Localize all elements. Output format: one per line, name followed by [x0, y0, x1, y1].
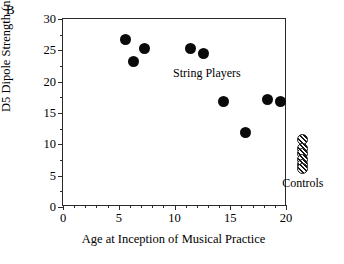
- x-axis-tick-label: 5: [116, 212, 122, 225]
- y-axis-tick-minor: [60, 191, 63, 192]
- x-axis-tick-minor: [152, 205, 153, 208]
- x-axis-tick-minor: [96, 205, 97, 208]
- y-axis-tick-minor: [60, 35, 63, 36]
- y-axis-tick-major: [58, 113, 63, 114]
- data-point: [185, 43, 196, 54]
- series-annotation-controls: Controls: [282, 176, 323, 191]
- series-annotation-string-players: String Players: [173, 65, 241, 80]
- y-axis-tick-label: 5: [50, 169, 56, 182]
- x-axis-tick-label: 15: [224, 212, 237, 225]
- x-axis-tick-minor: [197, 205, 198, 208]
- x-axis-tick-minor: [208, 205, 209, 208]
- figure-panel-b: B D5 Dipole Strength (nA•m) Age at Incep…: [0, 0, 344, 264]
- y-axis-tick-minor: [60, 66, 63, 67]
- y-axis-title: D5 Dipole Strength (nA•m): [0, 0, 14, 112]
- y-axis-tick-label: 15: [44, 107, 57, 120]
- x-axis-tick-label: 20: [280, 212, 293, 225]
- x-axis-tick-major: [286, 205, 287, 210]
- y-axis-tick-label: 20: [44, 75, 57, 88]
- x-axis-tick-label: 10: [168, 212, 181, 225]
- x-axis-tick-major: [119, 205, 120, 210]
- y-axis-tick-minor: [60, 129, 63, 130]
- x-axis-tick-minor: [275, 205, 276, 208]
- x-axis-tick-minor: [186, 205, 187, 208]
- y-axis-tick-label: 0: [50, 201, 56, 214]
- x-axis-tick-minor: [241, 205, 242, 208]
- y-axis-tick-major: [58, 82, 63, 83]
- x-axis-tick-minor: [141, 205, 142, 208]
- x-axis-tick-major: [230, 205, 231, 210]
- x-axis-tick-minor: [253, 205, 254, 208]
- x-axis-tick-minor: [130, 205, 131, 208]
- y-axis-tick-major: [58, 144, 63, 145]
- x-axis-tick-minor: [264, 205, 265, 208]
- x-axis-tick-minor: [85, 205, 86, 208]
- x-axis-title: Age at Inception of Musical Practice: [62, 232, 285, 247]
- x-axis-tick-major: [175, 205, 176, 210]
- y-axis-tick-minor: [60, 97, 63, 98]
- y-axis-tick-minor: [60, 160, 63, 161]
- data-point: [297, 163, 308, 174]
- x-axis-tick-minor: [74, 205, 75, 208]
- data-point: [240, 127, 251, 138]
- plot-area: 05101520253005101520: [62, 18, 285, 206]
- data-point: [139, 43, 150, 54]
- x-axis-tick-label: 0: [60, 212, 66, 225]
- x-axis-tick-major: [63, 205, 64, 210]
- x-axis-tick-minor: [219, 205, 220, 208]
- y-axis-tick-label: 25: [44, 44, 57, 57]
- y-axis-tick-major: [58, 19, 63, 20]
- data-point: [262, 94, 273, 105]
- data-point: [198, 48, 209, 59]
- y-axis-tick-major: [58, 176, 63, 177]
- x-axis-tick-minor: [163, 205, 164, 208]
- y-axis-tick-label: 10: [44, 138, 57, 151]
- y-axis-tick-label: 30: [44, 13, 57, 26]
- y-axis-tick-major: [58, 50, 63, 51]
- x-axis-tick-minor: [108, 205, 109, 208]
